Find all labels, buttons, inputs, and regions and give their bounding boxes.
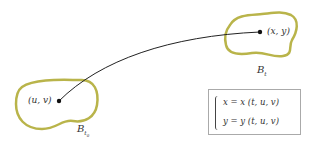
equation-x: x = x (t, u, v) bbox=[223, 97, 279, 107]
start-point-label: (u, v) bbox=[28, 95, 52, 105]
region-start-label-sub: t0 bbox=[84, 129, 89, 136]
equations-box: x = x (t, u, v) y = y (t, u, v) bbox=[208, 89, 301, 135]
end-point bbox=[258, 30, 262, 34]
region-end-label-sub: t bbox=[264, 70, 266, 77]
end-point-label: (x, y) bbox=[267, 26, 290, 36]
left-brace bbox=[215, 96, 220, 130]
start-point bbox=[57, 99, 61, 103]
region-end-label: Bt bbox=[257, 64, 267, 75]
region-start-label: Bt0 bbox=[77, 123, 89, 134]
equation-y: y = y (t, u, v) bbox=[223, 116, 279, 126]
